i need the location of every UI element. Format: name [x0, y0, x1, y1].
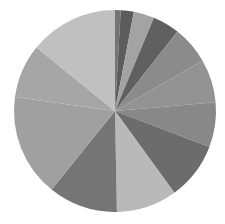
- pie-chart: [0, 0, 225, 224]
- pie-chart-canvas: [0, 0, 225, 224]
